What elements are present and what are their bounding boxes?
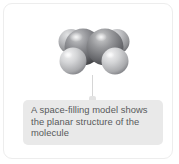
caption-box: A space-filling model shows the planar s… bbox=[23, 100, 163, 145]
highlight-carbon-left bbox=[69, 32, 83, 42]
atom-hydrogen-lower-left bbox=[60, 48, 87, 75]
space-filling-molecular-model bbox=[54, 28, 134, 78]
caption-line-3: molecule bbox=[31, 127, 156, 139]
molecule-svg bbox=[54, 28, 134, 78]
caption-line-1: A space-filling model shows bbox=[31, 104, 156, 116]
figure-card: A space-filling model shows the planar s… bbox=[3, 3, 173, 159]
highlight-carbon-right bbox=[95, 33, 107, 42]
atom-hydrogen-lower-right bbox=[102, 48, 129, 75]
highlight-hydrogen-lower-left bbox=[64, 52, 73, 59]
caption-line-2: the planar structure of the bbox=[31, 116, 156, 128]
highlight-hydrogen-lower-right bbox=[106, 52, 115, 59]
